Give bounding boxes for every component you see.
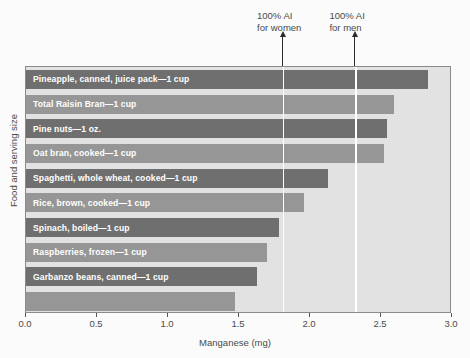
bar-row: Spinach, boiled—1 cup	[26, 218, 452, 237]
x-tick	[96, 313, 97, 317]
y-axis-label: Food and serving size	[8, 96, 19, 226]
bar-label: Raspberries, frozen—1 cup	[33, 247, 147, 257]
bar-label: Oat bran, cooked—1 cup	[33, 148, 136, 158]
x-tick-label: 1.5	[231, 318, 244, 329]
x-tick	[167, 313, 168, 317]
x-tick	[451, 313, 452, 317]
annotation-ai-women: 100% AIfor women	[257, 10, 301, 33]
bar-row: Rice, brown, cooked—1 cup	[26, 193, 452, 212]
x-tick	[25, 313, 26, 317]
bar-row: Total Raisin Bran—1 cup	[26, 95, 452, 114]
bar-label: Total Raisin Bran—1 cup	[33, 99, 136, 109]
annotation-line-1: 100% AI	[257, 10, 301, 22]
x-tick	[238, 313, 239, 317]
plot-area: Pineapple, canned, juice pack—1 cupTotal…	[25, 66, 451, 313]
x-tick-label: 2.0	[302, 318, 315, 329]
x-tick	[309, 313, 310, 317]
annotation-arrow-ai-men	[354, 36, 355, 66]
bar-row: Raspberries, frozen—1 cup	[26, 243, 452, 262]
bar-row	[26, 292, 452, 311]
reference-line-ai-men	[355, 67, 356, 312]
bar	[26, 292, 235, 311]
annotation-ai-men: 100% AIfor men	[329, 10, 364, 33]
x-tick-label: 0.5	[89, 318, 102, 329]
annotation-line-1: 100% AI	[329, 10, 364, 22]
manganese-bar-chart-figure: 100% AIfor women100% AIfor men Food and …	[0, 0, 470, 358]
reference-line-ai-women	[283, 67, 284, 312]
bar-label: Rice, brown, cooked—1 cup	[33, 198, 150, 208]
bar-label: Spaghetti, whole wheat, cooked—1 cup	[33, 173, 198, 183]
bar-label: Pine nuts—1 oz.	[33, 124, 101, 134]
bar-label: Pineapple, canned, juice pack—1 cup	[33, 74, 189, 84]
x-tick-label: 2.5	[373, 318, 386, 329]
x-tick-label: 1.0	[160, 318, 173, 329]
x-tick	[380, 313, 381, 317]
x-axis-label: Manganese (mg)	[0, 337, 470, 348]
bar-label: Spinach, boiled—1 cup	[33, 223, 130, 233]
bar-label: Garbanzo beans, canned—1 cup	[33, 272, 169, 282]
bar-row: Pine nuts—1 oz.	[26, 119, 452, 138]
x-tick-label: 0.0	[18, 318, 31, 329]
bar-row: Pineapple, canned, juice pack—1 cup	[26, 70, 452, 89]
annotation-arrow-ai-women	[282, 36, 283, 66]
bar-row: Oat bran, cooked—1 cup	[26, 144, 452, 163]
bar-row: Spaghetti, whole wheat, cooked—1 cup	[26, 169, 452, 188]
annotation-line-2: for women	[257, 22, 301, 34]
annotation-line-2: for men	[329, 22, 364, 34]
bar-row: Garbanzo beans, canned—1 cup	[26, 267, 452, 286]
x-tick-label: 3.0	[444, 318, 457, 329]
